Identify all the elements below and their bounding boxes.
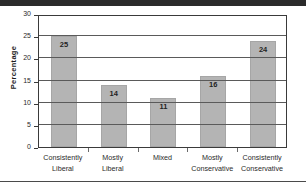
y-tick-label: 20 <box>0 54 31 61</box>
y-tick-label: 5 <box>0 121 31 128</box>
bar[interactable]: 14 <box>101 85 127 147</box>
x-tick-mark <box>88 148 89 152</box>
bar[interactable]: 11 <box>150 98 176 147</box>
y-tick-mark <box>34 104 38 105</box>
x-category-label: ConsistentlyConservative <box>233 153 291 174</box>
x-axis-labels: ConsistentlyLiberalMostlyLiberalMixedMos… <box>38 153 287 183</box>
bar-value-label: 11 <box>151 102 175 111</box>
gridline <box>39 102 286 103</box>
x-category-line: Liberal <box>84 164 142 175</box>
bar[interactable]: 25 <box>51 36 77 147</box>
bottom-rule-divider <box>0 181 306 182</box>
y-tick-mark <box>34 15 38 16</box>
y-tick-mark <box>34 59 38 60</box>
y-tick-mark <box>34 126 38 127</box>
chart-figure: Percentage 2514111624 051015202530 Consi… <box>0 0 306 189</box>
bar-value-label: 25 <box>52 40 76 49</box>
top-band-divider <box>0 0 306 6</box>
bar[interactable]: 16 <box>200 76 226 147</box>
bar-value-label: 16 <box>201 80 225 89</box>
gridline <box>39 80 286 81</box>
gridline <box>39 124 286 125</box>
y-tick-label: 10 <box>0 99 31 106</box>
bar-value-label: 24 <box>251 45 275 54</box>
y-tick-label: 30 <box>0 10 31 17</box>
y-tick-label: 0 <box>0 143 31 150</box>
y-tick-mark <box>34 37 38 38</box>
x-category-line: Consistently <box>233 153 291 164</box>
x-category-line: Conservative <box>233 164 291 175</box>
y-tick-mark <box>34 82 38 83</box>
gridline <box>39 57 286 58</box>
y-axis-title: Percentage <box>9 33 18 103</box>
y-tick-label: 25 <box>0 32 31 39</box>
x-tick-mark <box>187 148 188 152</box>
plot-area: 2514111624 <box>38 15 287 148</box>
x-tick-mark <box>237 148 238 152</box>
y-tick-mark <box>34 148 38 149</box>
x-tick-mark <box>138 148 139 152</box>
gridline <box>39 35 286 36</box>
bar-value-label: 14 <box>102 89 126 98</box>
y-tick-label: 15 <box>0 77 31 84</box>
